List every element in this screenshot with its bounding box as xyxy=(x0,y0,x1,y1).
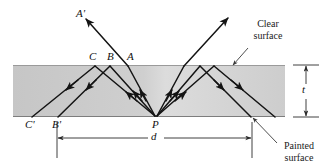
label-p: P xyxy=(152,119,159,130)
label-a: A xyxy=(127,51,134,62)
clear-surface-leader xyxy=(233,48,248,65)
painted-surface-line-2: surface xyxy=(271,152,327,164)
label-b: B xyxy=(107,51,114,62)
label-c-prime: C' xyxy=(25,119,35,130)
clear-surface-line-1: Clear xyxy=(240,18,296,30)
label-a-prime: A' xyxy=(76,8,85,19)
clear-surface-line-2: surface xyxy=(240,30,296,42)
right-ray-a-exit xyxy=(184,18,228,66)
painted-surface-line-1: Painted xyxy=(271,140,327,152)
label-distance-d: d xyxy=(151,131,157,142)
annotation-clear-surface: Clear surface xyxy=(240,18,296,41)
label-thickness-t: t xyxy=(302,84,305,95)
thickness-dimension xyxy=(293,65,319,117)
annotation-painted-surface: Painted surface xyxy=(271,140,327,163)
label-b-prime: B' xyxy=(52,119,61,130)
label-c: C xyxy=(89,51,96,62)
optics-reflection-figure: A' C B A C' B' P t d Clear surface Paint… xyxy=(0,0,329,167)
